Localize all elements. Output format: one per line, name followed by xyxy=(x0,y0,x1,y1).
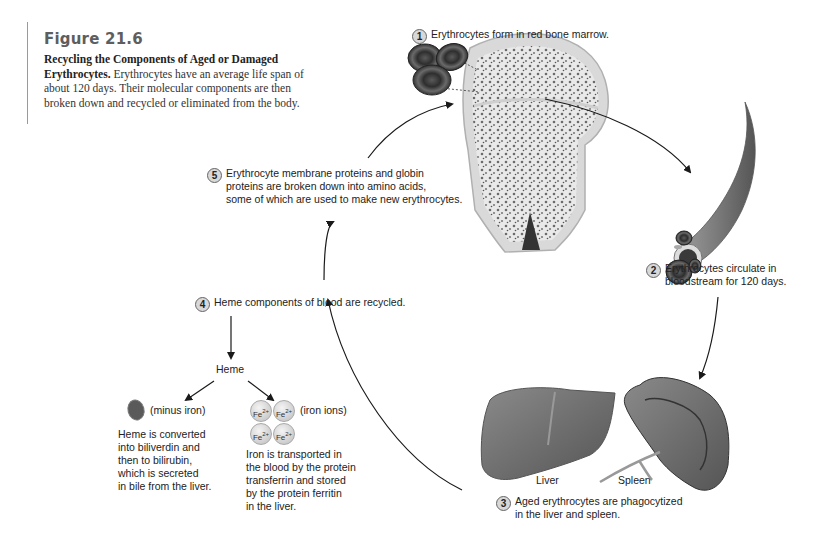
step-number-badge: 3 xyxy=(496,496,511,511)
arrow-2-to-3 xyxy=(700,297,718,378)
minus-iron-label: (minus iron) xyxy=(150,404,205,417)
step-4-label: 4Heme components of blood are recycled. xyxy=(195,296,405,312)
iron-transport-description: Iron is transported in the blood by the … xyxy=(246,448,356,513)
step-3-label: 3Aged erythrocytes are phagocytizedin th… xyxy=(496,495,683,521)
biliverdin-description: Heme is converted into biliverdin and th… xyxy=(118,428,211,493)
arrow-heme-to-biliverdin xyxy=(186,381,214,400)
step-number-badge: 4 xyxy=(195,297,210,312)
erythrocytes-cluster xyxy=(408,39,471,95)
step-number-badge: 2 xyxy=(646,263,661,278)
blood-vessel-illustration xyxy=(674,102,755,272)
step-number-badge: 5 xyxy=(207,168,222,183)
liver-illustration xyxy=(481,388,615,480)
step-5-label: 5Erythrocyte membrane proteins and globi… xyxy=(207,167,462,206)
arrow-5-to-1 xyxy=(368,104,452,158)
iron-ion-icon: Fe2+ xyxy=(250,400,272,422)
arrow-heme-to-iron xyxy=(248,381,273,400)
liver-label: Liver xyxy=(536,474,559,487)
iron-ion-icon: Fe2+ xyxy=(273,400,295,422)
step-number-badge: 1 xyxy=(412,29,427,44)
iron-ions-label: (iron ions) xyxy=(300,404,347,417)
heme-label: Heme xyxy=(216,363,244,376)
iron-ion-icon: Fe2+ xyxy=(250,423,272,445)
heme-minus-iron-icon xyxy=(126,398,147,421)
step-2-label: 2Erythrocytes circulate inbloodstream fo… xyxy=(646,262,786,288)
step-1-label: 1Erythrocytes form in red bone marrow. xyxy=(412,28,609,44)
iron-ion-icon: Fe2+ xyxy=(273,423,295,445)
spleen-label: Spleen xyxy=(618,474,651,487)
arrow-4-to-5 xyxy=(324,222,333,280)
